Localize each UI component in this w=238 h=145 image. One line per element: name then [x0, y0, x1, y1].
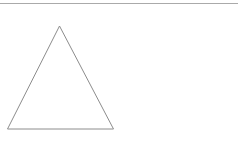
figure-svg: [0, 0, 238, 145]
drawing-canvas: [0, 0, 238, 145]
